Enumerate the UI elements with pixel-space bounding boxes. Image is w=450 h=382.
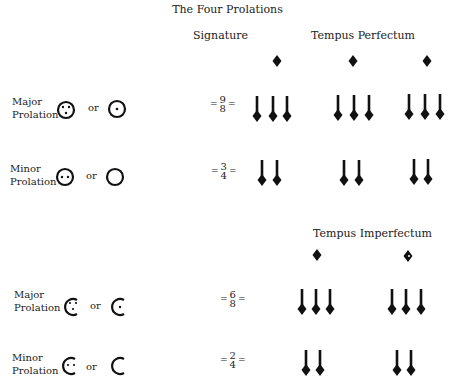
or-text: or <box>86 361 97 372</box>
notation-graphics <box>0 0 450 382</box>
or-text: or <box>86 170 97 181</box>
breve-diamond-icon <box>349 55 358 67</box>
breve-diamond-icon <box>313 249 322 261</box>
minim-group-icon <box>298 289 335 315</box>
circle-one-dot-icon <box>109 101 125 117</box>
or-text: or <box>88 102 99 113</box>
breve-diamond-icon <box>423 55 432 67</box>
minim-group-icon <box>334 95 374 121</box>
signature-fraction: = 34 = <box>211 162 236 180</box>
minim-group-icon <box>393 350 416 376</box>
row-label: MajorProlation <box>14 288 60 314</box>
minim-group-icon <box>253 96 292 122</box>
row-label: MajorProlation <box>12 95 58 121</box>
minim-group-icon <box>388 289 426 315</box>
minim-group-icon <box>410 159 433 185</box>
half-circle-two-dots-icon <box>63 358 75 374</box>
circle-empty-icon <box>107 169 123 185</box>
minim-group-icon <box>258 160 282 186</box>
row-label: MinorProlation <box>12 351 58 377</box>
minim-group-icon <box>340 160 364 186</box>
circle-three-dots-icon <box>58 102 74 118</box>
half-circle-three-dots-icon <box>65 299 77 315</box>
circle-two-dots-icon <box>57 169 73 185</box>
signature-fraction: = 68 = <box>220 290 245 308</box>
signature-fraction: = 24 = <box>220 351 245 369</box>
signature-fraction: = 98 = <box>210 95 235 113</box>
row-label: MinorProlation <box>10 162 56 188</box>
or-text: or <box>90 300 101 311</box>
half-circle-one-dot-icon <box>112 299 124 315</box>
half-circle-empty-icon <box>112 358 124 374</box>
breve-diamond-icon <box>273 55 282 67</box>
minim-group-icon <box>405 94 445 120</box>
minim-group-icon <box>302 350 325 376</box>
